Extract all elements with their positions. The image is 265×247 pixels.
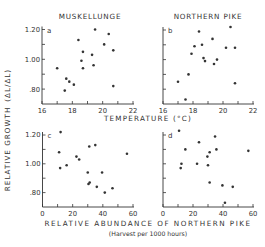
data-point (68, 80, 71, 83)
data-point (73, 83, 76, 86)
data-point (216, 58, 219, 61)
x-tick-label: 22 (129, 107, 138, 115)
x-tick-label: 0 (161, 210, 165, 218)
y-tick-label: 1.20 (25, 131, 40, 139)
data-point (65, 164, 68, 167)
data-point (80, 59, 83, 62)
y-tick-label: .80 (30, 189, 41, 197)
data-point (82, 67, 85, 70)
data-point (103, 43, 106, 46)
data-point (179, 167, 182, 170)
data-point (91, 54, 94, 57)
x-tick-label: 60 (129, 210, 138, 218)
data-point (56, 67, 59, 70)
data-point (198, 141, 201, 144)
panel-letter: c (48, 132, 52, 140)
data-point (213, 63, 216, 66)
data-point (215, 148, 218, 151)
y-tick-label: 1.00 (25, 160, 40, 168)
data-point (184, 148, 187, 151)
data-point (214, 135, 217, 138)
y-tick-label: .80 (29, 86, 40, 94)
data-point (224, 201, 227, 204)
figure: MUSKELLUNGE NORTHERN PIKE RELATIVE GROWT… (0, 0, 265, 247)
y-tick-label: 1.00 (25, 56, 40, 64)
data-point (208, 151, 211, 154)
x-tick-label: 20 (219, 107, 228, 115)
data-point (101, 171, 104, 174)
data-point (184, 98, 187, 101)
data-point (206, 155, 209, 158)
data-point (94, 144, 97, 147)
data-point (231, 186, 234, 189)
y-axis-label-main: RELATIVE GROWTH (3, 107, 12, 191)
x-axis-sublabel-harvest: (Harvest per 1000 hours) (109, 230, 187, 238)
data-point (59, 167, 62, 170)
data-point (207, 164, 210, 167)
x-tick-label: 20 (98, 107, 107, 115)
panel-b: 16182022b (159, 26, 258, 115)
data-point (94, 28, 97, 31)
data-point (247, 150, 250, 153)
x-tick-label: 20 (68, 210, 77, 218)
x-tick-label: 18 (68, 107, 77, 115)
data-point (92, 64, 95, 67)
y-axis-label-ratio: (ΔL/ΔL) (3, 69, 12, 102)
data-point (111, 187, 114, 190)
data-point (65, 77, 68, 80)
data-point (63, 89, 66, 92)
data-point (75, 155, 78, 158)
data-point (112, 85, 115, 88)
title-muskellunge: MUSKELLUNGE (59, 12, 121, 21)
data-point (177, 81, 180, 84)
x-tick-label: 0 (40, 210, 44, 218)
data-point (112, 49, 115, 52)
data-point (88, 145, 91, 148)
data-point (180, 163, 183, 166)
data-point (59, 131, 62, 134)
x-tick-label: 18 (189, 107, 198, 115)
data-point (202, 57, 205, 60)
data-point (78, 158, 81, 161)
data-point (126, 152, 129, 155)
title-northern-pike: NORTHERN PIKE (174, 12, 243, 21)
data-point (178, 129, 181, 132)
x-tick-label: 16 (159, 107, 168, 115)
x-tick-label: 60 (249, 210, 258, 218)
data-point (229, 26, 232, 29)
data-point (196, 163, 199, 166)
data-point (82, 51, 85, 54)
data-point (211, 38, 214, 41)
data-point (87, 183, 90, 186)
x-tick-label: 40 (219, 210, 228, 218)
panel-a: .801.001.2016182022a (25, 26, 137, 115)
y-tick-label: 1.20 (25, 26, 40, 34)
data-point (187, 73, 190, 76)
panel-letter: b (168, 27, 173, 35)
panel-c: .801.001.200204060c (25, 131, 137, 218)
x-tick-label: 20 (189, 210, 198, 218)
data-point (221, 184, 224, 187)
data-point (208, 181, 211, 184)
x-tick-label: 16 (38, 107, 47, 115)
data-point (201, 44, 204, 47)
x-tick-label: 22 (249, 107, 258, 115)
x-axis-label-temperature: TEMPERATURE (°C) (103, 114, 192, 123)
data-point (198, 30, 201, 33)
panel-letter: d (168, 132, 172, 140)
data-point (96, 186, 99, 189)
data-point (234, 46, 237, 49)
data-point (103, 191, 106, 194)
data-point (204, 60, 207, 63)
data-point (234, 82, 237, 85)
data-point (193, 45, 196, 48)
x-axis-label-abundance: RELATIVE ABUNDANCE OF NORTHERN PIKE (44, 219, 251, 228)
data-point (225, 46, 228, 49)
y-axis-label: RELATIVE GROWTH(ΔL/ΔL) (3, 69, 12, 191)
data-point (77, 39, 80, 42)
panel-d: 0204060d (161, 129, 257, 218)
data-point (86, 171, 89, 174)
data-point (190, 52, 193, 55)
x-tick-label: 40 (99, 210, 108, 218)
data-point (58, 151, 61, 154)
